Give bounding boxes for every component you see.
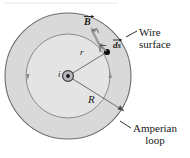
b-field-label: B xyxy=(84,17,91,28)
ds-element-label: ds xyxy=(113,41,121,51)
wire-surface-label-line1: Wire xyxy=(139,26,161,38)
amperian-label-line2: loop xyxy=(133,135,177,147)
amperian-loop-label: Amperian loop xyxy=(133,123,177,147)
wire-surface-leader-line xyxy=(126,31,137,37)
wire-surface-label-line2: surface xyxy=(139,38,171,50)
amperian-leader-line xyxy=(120,121,131,128)
wire-surface-label: Wire surface xyxy=(139,27,171,51)
current-out-of-page-dot xyxy=(66,74,70,78)
current-label: i xyxy=(58,70,61,80)
radius-r-label: r xyxy=(80,48,84,58)
amperian-label-line1: Amperian xyxy=(133,122,177,134)
radius-R-label: R xyxy=(88,94,95,106)
